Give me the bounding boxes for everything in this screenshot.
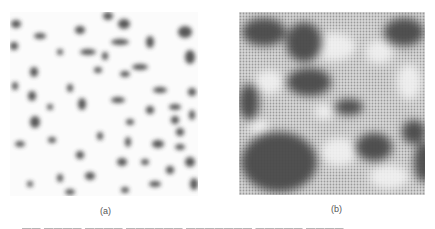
speckle-pattern-image — [10, 12, 198, 196]
figure-panel-a — [10, 12, 198, 196]
figure-caption-truncated: ▬▬ ▬▬▬▬ ▬▬▬▬ ▬▬▬▬▬▬ ▬▬▬▬▬▬▬ ▬▬▬▬▬ ▬▬▬▬ — [22, 223, 344, 229]
panel-b-label: (b) — [331, 204, 342, 214]
domain-pattern-image — [239, 12, 425, 195]
figure-panel-b — [239, 12, 425, 195]
panel-a-label: (a) — [100, 206, 111, 216]
